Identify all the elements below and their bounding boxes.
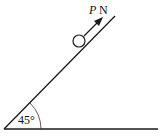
particle [73, 35, 85, 47]
inclined-plane-diagram: P N 45° [0, 0, 161, 136]
angle-label: 45° [18, 113, 35, 127]
force-label-unit: N [99, 3, 108, 17]
force-label-variable: P [88, 3, 97, 17]
force-arrow-shaft [84, 22, 98, 36]
